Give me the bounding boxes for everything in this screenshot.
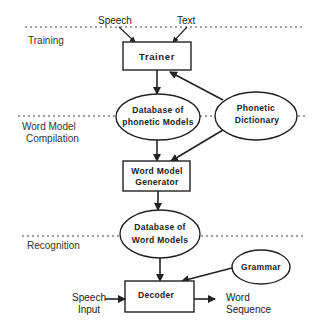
word-sequence-label-2: Sequence xyxy=(226,304,271,315)
arrow-text-to-trainer xyxy=(173,27,187,42)
arrow-speech-to-trainer xyxy=(119,27,135,42)
phonetic-db-label-1: Database of xyxy=(132,105,183,115)
grammar-node: Grammar xyxy=(232,250,290,284)
arrow-dictionary-to-trainer xyxy=(170,72,223,100)
word-db-label-1: Database of xyxy=(134,222,185,232)
section-label-compilation-1: Word Model xyxy=(22,121,76,132)
input-text-label: Text xyxy=(177,15,196,26)
section-label-training: Training xyxy=(28,35,64,46)
section-label-recognition: Recognition xyxy=(27,240,80,251)
input-speech-label: Speech xyxy=(98,15,132,26)
speech-input-label-1: Speech xyxy=(72,292,106,303)
decoder-node: Decoder xyxy=(125,281,194,312)
speech-recognition-diagram: Training Word Model Compilation Recognit… xyxy=(0,0,321,336)
section-label-compilation-2: Compilation xyxy=(26,133,79,144)
grammar-label: Grammar xyxy=(241,262,281,272)
decoder-label: Decoder xyxy=(138,290,175,300)
speech-input-label-2: Input xyxy=(78,304,100,315)
arrow-grammar-to-decoder xyxy=(182,268,232,281)
generator-label-1: Word Model xyxy=(131,166,182,176)
trainer-node: Trainer xyxy=(123,42,191,70)
word-sequence-label-1: Word xyxy=(226,292,250,303)
generator-label-2: Generator xyxy=(135,177,179,187)
dictionary-label-2: Dictionary xyxy=(235,115,280,125)
word-db-label-2: Word Models xyxy=(132,235,189,245)
word-models-db-node: Database of Word Models xyxy=(120,210,200,258)
dictionary-label-1: Phonetic xyxy=(237,103,275,113)
word-model-generator-node: Word Model Generator xyxy=(123,161,190,191)
phonetic-models-db-node: Database of phonetic Models xyxy=(116,94,200,140)
phonetic-db-label-2: phonetic Models xyxy=(122,117,194,127)
phonetic-dictionary-node: Phonetic Dictionary xyxy=(215,92,297,140)
trainer-label: Trainer xyxy=(139,51,175,62)
